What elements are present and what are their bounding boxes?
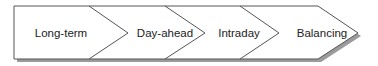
step-balancing: Balancing [297, 27, 348, 39]
step-long-term: Long-term [35, 27, 87, 39]
step-day-ahead: Day-ahead [137, 27, 193, 39]
step-intraday: Intraday [218, 27, 260, 39]
